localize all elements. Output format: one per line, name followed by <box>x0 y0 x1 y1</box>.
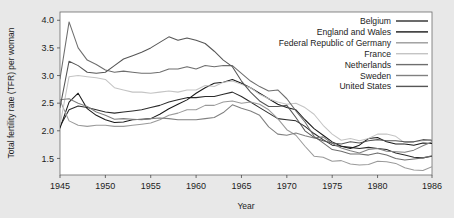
x-tick-label: 1965 <box>231 181 251 191</box>
legend-label-france: France <box>364 49 391 59</box>
x-tick-label: 1980 <box>368 181 388 191</box>
x-tick-label: 1986 <box>422 181 442 191</box>
x-tick-label: 1975 <box>322 181 342 191</box>
fertility-rate-line-chart: 1.52.02.53.03.54.0 194519501955196019651… <box>0 0 454 218</box>
y-tick-label: 3.0 <box>41 71 54 81</box>
legend-label-sweden: Sweden <box>360 71 391 81</box>
x-tick-label: 1945 <box>50 181 70 191</box>
legend-label-belgium: Belgium <box>360 16 391 26</box>
x-axis-title: Year <box>237 201 254 211</box>
figure-container: 1.52.02.53.03.54.0 194519501955196019651… <box>0 0 454 218</box>
y-axis-title: Total fertility rate (TFR) per woman <box>6 27 16 158</box>
y-tick-label: 2.5 <box>41 98 54 108</box>
x-tick-label: 1955 <box>141 181 161 191</box>
legend-label-netherlands: Netherlands <box>345 60 391 70</box>
y-tick-label: 3.5 <box>41 43 54 53</box>
y-tick-label: 1.5 <box>41 154 54 164</box>
y-tick-label: 4.0 <box>41 15 54 25</box>
y-tick-label: 2.0 <box>41 126 54 136</box>
x-tick-label: 1970 <box>277 181 297 191</box>
x-tick-label: 1960 <box>186 181 206 191</box>
legend-label-federal-republic-of-germany: Federal Republic of Germany <box>279 38 392 48</box>
x-tick-label: 1950 <box>95 181 115 191</box>
legend-label-england-and-wales: England and Wales <box>317 27 391 37</box>
legend-label-united-states: United States <box>339 81 391 91</box>
